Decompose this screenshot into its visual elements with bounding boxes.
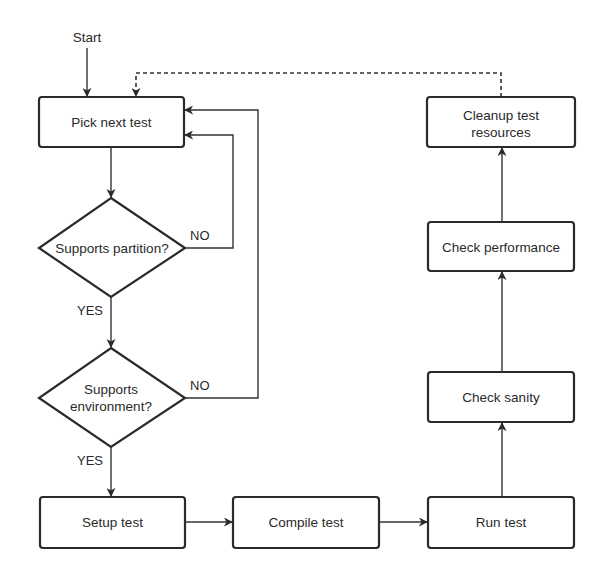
node-check-sanity: Check sanity [428, 372, 574, 422]
node-setup-test: Setup test [40, 497, 185, 548]
node-compile-test: Compile test [233, 497, 379, 548]
decision-supports-partition: Supports partition? [39, 198, 185, 297]
setup-test-label: Setup test [82, 515, 143, 530]
cleanup-label-line1: Cleanup test [463, 108, 539, 123]
node-run-test: Run test [428, 497, 574, 548]
decision-supports-environment: Supports environment? [39, 348, 185, 447]
environment-no-label: NO [190, 378, 210, 393]
supports-environment-label-line1: Supports [84, 382, 138, 397]
run-test-label: Run test [476, 515, 527, 530]
environment-yes-label: YES [77, 453, 103, 468]
environment-no-arrow [185, 110, 258, 398]
supports-environment-label-line2: environment? [70, 399, 152, 414]
start-label: Start [73, 30, 102, 45]
node-cleanup-test-resources: Cleanup test resources [427, 97, 575, 147]
node-pick-next-test: Pick next test [39, 97, 184, 147]
check-sanity-label: Check sanity [462, 390, 540, 405]
flowchart: Start Pick next test Supports partition?… [0, 0, 608, 578]
check-performance-label: Check performance [442, 240, 560, 255]
cleanup-label-line2: resources [471, 125, 531, 140]
partition-yes-label: YES [77, 303, 103, 318]
dashed-return-arrow [136, 73, 501, 97]
partition-no-label: NO [190, 228, 210, 243]
node-check-performance: Check performance [428, 222, 574, 271]
supports-partition-label: Supports partition? [55, 241, 168, 256]
compile-test-label: Compile test [268, 515, 343, 530]
pick-next-test-label: Pick next test [71, 115, 152, 130]
